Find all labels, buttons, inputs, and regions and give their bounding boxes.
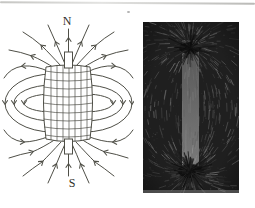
core-rod-bottom-stub [65,139,73,154]
north-pole-label: N [58,15,76,27]
solenoid-field-diagram: N S [2,8,134,200]
photo-bottom-edge [143,190,239,193]
south-pole-label: S [63,177,81,189]
page-edge-artifact [0,1,255,5]
field-line-drawing [2,8,134,200]
iron-filings-pattern [143,22,239,193]
textbook-figure-page: N S [0,0,255,208]
photo-vignette [143,22,239,193]
core-rod-top-stub [65,52,73,68]
iron-filings-photo [143,22,239,193]
solenoid-coil [43,65,93,142]
